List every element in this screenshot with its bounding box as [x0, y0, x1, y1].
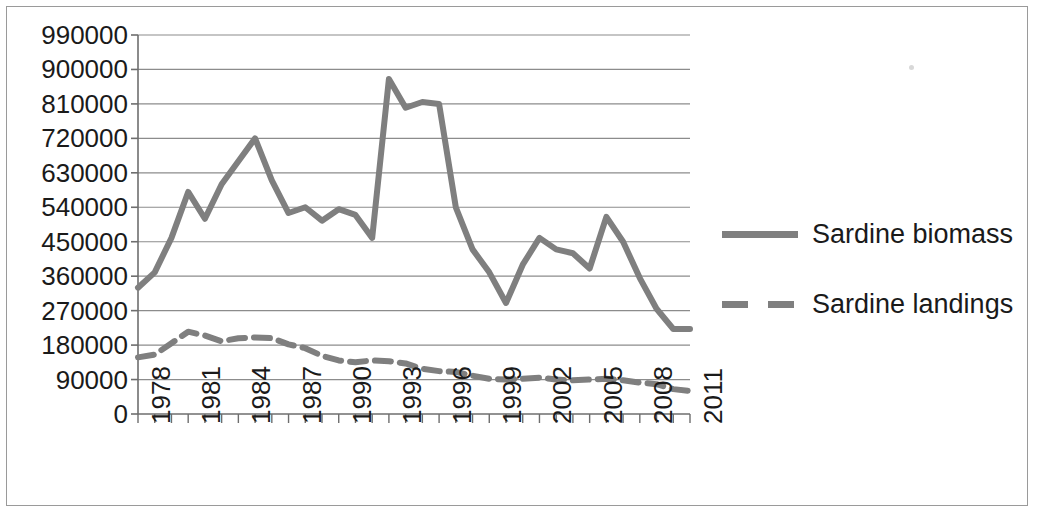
- x-axis-tick-label: 1978: [148, 366, 174, 424]
- y-axis-tick-label: 0: [114, 401, 128, 427]
- legend-line-solid-icon: [722, 231, 798, 238]
- legend-item-landings: Sardine landings: [722, 278, 1022, 330]
- y-axis-tick-label: 900000: [41, 56, 128, 82]
- x-axis-tick-label: 1993: [399, 366, 425, 424]
- y-axis-tick-label: 180000: [41, 332, 128, 358]
- legend-item-biomass: Sardine biomass: [722, 208, 1022, 260]
- y-axis-tick-label: 720000: [41, 125, 128, 151]
- axis-lines: [138, 35, 690, 414]
- x-axis-tick-label: 1981: [198, 366, 224, 424]
- y-axis-tick-label: 270000: [41, 298, 128, 324]
- x-axis-tick-label: 1990: [349, 366, 375, 424]
- y-axis-tick-label: 990000: [41, 22, 128, 48]
- y-axis-tick-label: 540000: [41, 194, 128, 220]
- series-line-biomass: [138, 79, 690, 329]
- chart-legend: Sardine biomass Sardine landings: [722, 208, 1022, 348]
- legend-label-biomass: Sardine biomass: [812, 219, 1013, 250]
- x-axis-tick-label: 2002: [549, 366, 575, 424]
- legend-label-landings: Sardine landings: [812, 289, 1013, 320]
- y-axis-tick-label: 630000: [41, 160, 128, 186]
- y-axis-tick-label: 90000: [56, 367, 128, 393]
- scan-artifact-dot: [909, 65, 914, 70]
- y-axis-tick-label: 810000: [41, 91, 128, 117]
- legend-line-dashed-icon: [722, 301, 798, 308]
- x-axis-tick-label: 2011: [700, 368, 726, 424]
- y-axis-tick-label: 450000: [41, 229, 128, 255]
- x-axis-tick-label: 2005: [600, 366, 626, 424]
- x-axis-tick-label: 2008: [650, 366, 676, 424]
- gridlines: [138, 35, 690, 380]
- data-series: [138, 79, 690, 391]
- x-axis-tick-label: 1996: [449, 366, 475, 424]
- x-axis-tick-label: 1999: [499, 366, 525, 424]
- x-axis-tick-label: 1984: [248, 366, 274, 424]
- y-axis-tick-label: 360000: [41, 263, 128, 289]
- chart-container: 0900001800002700003600004500005400006300…: [0, 0, 1038, 516]
- x-axis-tick-label: 1987: [299, 366, 325, 424]
